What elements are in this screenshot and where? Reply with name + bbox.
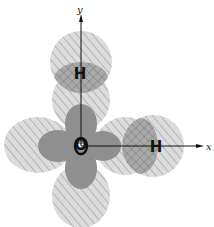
hydrogen-right-label: H — [150, 138, 163, 156]
y-axis-arrow-icon — [79, 14, 83, 22]
water-orbital-diagram: y x O H H — [0, 0, 214, 227]
x-axis-arrow-icon — [196, 144, 204, 148]
oxygen-label: O — [75, 136, 88, 154]
lobe-left-inner — [38, 130, 78, 162]
x-axis-label: x — [206, 141, 212, 152]
oxygen-atom: O — [75, 136, 88, 154]
y-axis-label: y — [76, 4, 83, 15]
hydrogen-top-label: H — [74, 65, 87, 83]
